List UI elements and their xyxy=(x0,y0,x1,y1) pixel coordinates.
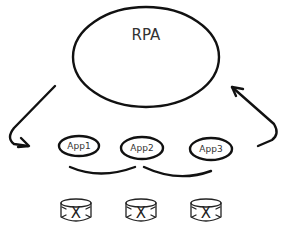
app3-label: App3 xyxy=(199,144,222,154)
rpa-diagram: RPA App1 App2 App3 X xyxy=(0,0,286,233)
database-1-label: X xyxy=(71,204,81,222)
link-app1-app2 xyxy=(70,167,135,174)
rpa-node: RPA xyxy=(73,7,219,107)
arrow-apps-to-rpa xyxy=(232,87,277,146)
database-3-label: X xyxy=(201,204,211,222)
arrow-up-left-icon xyxy=(232,87,277,146)
app-node-2: App2 xyxy=(121,137,163,159)
rpa-label: RPA xyxy=(132,26,162,44)
app1-label: App1 xyxy=(67,141,90,151)
database-3: X xyxy=(191,199,221,222)
link-app2-app3 xyxy=(144,167,211,176)
database-1: X xyxy=(61,199,91,222)
database-2-label: X xyxy=(136,204,146,222)
app2-label: App2 xyxy=(130,143,153,153)
arrow-rpa-to-apps xyxy=(10,86,55,147)
rpa-ellipse xyxy=(73,7,219,107)
app-node-3: App3 xyxy=(190,138,232,160)
arrowhead-right-icon xyxy=(18,138,29,147)
database-2: X xyxy=(126,199,156,222)
app-node-1: App1 xyxy=(59,136,99,156)
arrow-down-left-icon xyxy=(10,86,55,146)
